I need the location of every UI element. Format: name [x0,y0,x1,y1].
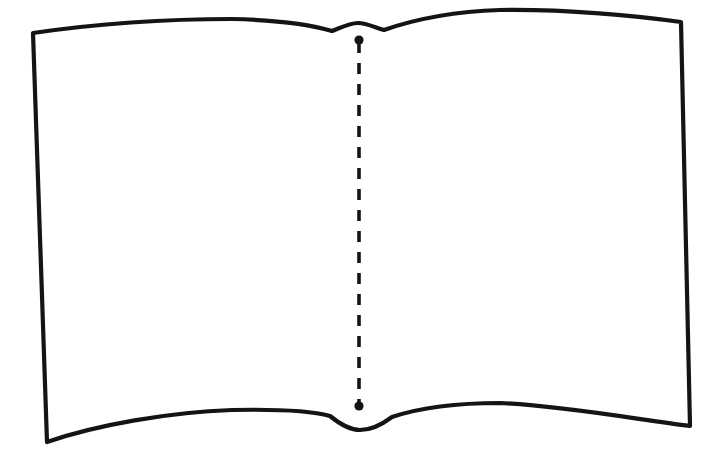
illustration-root [0,0,723,465]
book-outline-path [33,10,690,442]
spine-top-dot [354,35,363,44]
spine-bottom-dot [354,401,363,410]
open-book-illustration [0,0,723,465]
